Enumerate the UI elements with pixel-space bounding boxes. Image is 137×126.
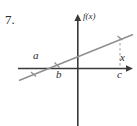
- point-label-c: c: [117, 69, 122, 80]
- x-axis-label: x: [120, 52, 125, 63]
- x-axis-arrowhead-icon: [126, 65, 133, 72]
- x-axis: [18, 65, 133, 72]
- figure-container: 7. f(x) x a b c: [0, 0, 137, 126]
- y-axis-label: f(x): [83, 12, 96, 21]
- point-label-a: a: [33, 50, 39, 61]
- graph-canvas: [0, 0, 137, 126]
- y-axis: [74, 14, 81, 126]
- y-axis-arrowhead-icon: [74, 14, 81, 21]
- point-label-b: b: [56, 69, 62, 80]
